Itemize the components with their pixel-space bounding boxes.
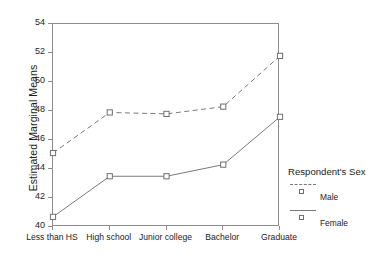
data-point-marker xyxy=(164,174,169,179)
plot-inner xyxy=(53,24,278,225)
legend-item-male[interactable]: Male xyxy=(288,180,388,206)
legend-label-female: Female xyxy=(320,218,348,228)
legend-square-marker-icon xyxy=(299,215,304,220)
series-lines xyxy=(53,24,280,227)
legend: Respondent's Sex Male Female xyxy=(288,166,388,232)
data-point-marker xyxy=(107,110,112,115)
x-tick-label: Graduate xyxy=(233,232,325,242)
data-point-marker xyxy=(221,162,226,167)
legend-label-male: Male xyxy=(320,192,338,202)
series-line-male xyxy=(53,56,280,153)
data-point-marker xyxy=(277,114,282,119)
data-point-marker xyxy=(107,174,112,179)
x-tick-mark xyxy=(279,226,280,230)
y-tick-label: 50 xyxy=(0,75,52,87)
x-tick-mark xyxy=(222,226,223,230)
legend-line-dashed-icon xyxy=(290,184,316,185)
data-point-marker xyxy=(50,150,55,155)
y-tick-label: 46 xyxy=(0,133,52,145)
x-tick-mark xyxy=(109,226,110,230)
y-tick-label: 48 xyxy=(0,104,52,116)
legend-title: Respondent's Sex xyxy=(288,166,388,177)
data-point-marker xyxy=(277,53,282,58)
chart-container: Estimated Marginal Means 545250484644424… xyxy=(0,0,389,260)
data-point-marker xyxy=(164,111,169,116)
y-tick-label: 42 xyxy=(0,191,52,203)
y-tick-label: 40 xyxy=(0,220,52,232)
y-tick-label: 54 xyxy=(0,17,52,29)
y-tick-label: 52 xyxy=(0,46,52,58)
series-line-female xyxy=(53,117,280,217)
legend-item-female[interactable]: Female xyxy=(288,206,388,232)
data-point-marker xyxy=(221,104,226,109)
data-point-marker xyxy=(50,214,55,219)
x-tick-mark xyxy=(166,226,167,230)
legend-line-solid-icon xyxy=(290,210,316,211)
y-tick-label: 44 xyxy=(0,162,52,174)
x-tick-mark xyxy=(52,226,53,230)
plot-area xyxy=(52,23,279,226)
legend-square-marker-icon xyxy=(299,189,304,194)
